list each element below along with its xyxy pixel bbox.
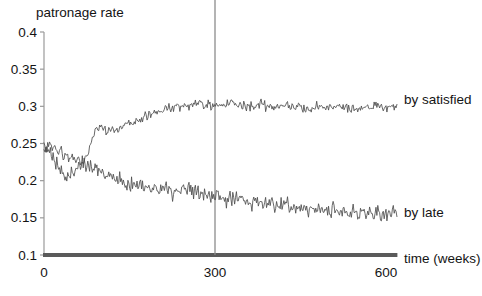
y-axis-tick-label: 0.15 bbox=[11, 210, 37, 225]
series-label-layer: by satisfiedby late bbox=[404, 92, 472, 220]
x-axis-tick-label: 600 bbox=[375, 265, 398, 280]
patronage-rate-chart: patronage rate 0.10.150.20.250.30.350.4 … bbox=[0, 0, 482, 296]
series-label-by-late: by late bbox=[404, 205, 444, 220]
series-label-by-satisfied: by satisfied bbox=[404, 92, 472, 107]
y-axis: 0.10.150.20.250.30.350.4 bbox=[11, 25, 44, 263]
series-layer bbox=[44, 99, 397, 221]
y-axis-tick-label: 0.35 bbox=[11, 62, 37, 77]
chart-title: patronage rate bbox=[36, 5, 124, 20]
x-axis-tick-label: 300 bbox=[204, 265, 227, 280]
y-axis-tick-label: 0.4 bbox=[18, 25, 37, 40]
y-axis-tick-label: 0.2 bbox=[18, 173, 37, 188]
series-line-by-late bbox=[44, 143, 397, 221]
x-axis: 0300600 bbox=[40, 255, 397, 280]
series-line-by-satisfied bbox=[44, 99, 397, 165]
x-axis-tick-label: 0 bbox=[40, 265, 48, 280]
y-axis-tick-label: 0.1 bbox=[18, 248, 37, 263]
y-axis-tick-label: 0.25 bbox=[11, 136, 37, 151]
chart-canvas: patronage rate 0.10.150.20.250.30.350.4 … bbox=[0, 0, 482, 296]
x-axis-title: time (weeks) bbox=[404, 251, 481, 266]
y-axis-tick-label: 0.3 bbox=[18, 99, 37, 114]
